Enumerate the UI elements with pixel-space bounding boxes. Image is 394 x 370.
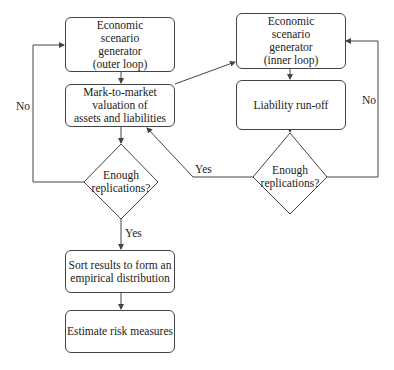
outer-scenario-generator-box: Economic scenario generator (outer loop) [65,17,175,72]
outer-decision-label: Enough replications? [84,169,158,195]
mark-to-market-valuation-box: Mark-to-market valuation of assets and l… [65,84,175,127]
inner-yes-label: Yes [195,163,212,176]
inner-scenario-generator-box: Economic scenario generator (inner loop) [236,13,346,69]
outer-no-label: No [16,100,30,113]
inner-no-label: No [362,94,376,107]
sort-results-box: Sort results to form an empirical distri… [65,250,175,293]
edge-mtm-to-inner-esg [175,62,235,84]
estimate-risk-measures-box: Estimate risk measures [65,310,175,353]
outer-yes-label: Yes [125,227,142,240]
liability-run-off-box: Liability run-off [236,80,346,130]
inner-decision-label: Enough replications? [253,164,327,190]
